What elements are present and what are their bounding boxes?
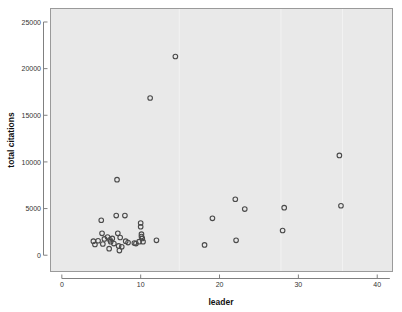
plot-area-background — [50, 8, 393, 272]
y-tick-label: 15000 — [22, 112, 42, 119]
x-tick-label: 40 — [373, 281, 381, 288]
y-tick-label: 20000 — [22, 65, 42, 72]
y-tick-label: 5000 — [25, 205, 41, 212]
x-tick-label: 30 — [294, 281, 302, 288]
x-tick-label: 10 — [137, 281, 145, 288]
x-tick-label: 0 — [60, 281, 64, 288]
x-tick-label: 20 — [216, 281, 224, 288]
y-tick-label: 25000 — [22, 19, 42, 26]
x-axis-title: leader — [208, 297, 234, 307]
y-tick-label: 10000 — [22, 159, 42, 166]
y-axis: 0500010000150002000025000 — [22, 19, 48, 259]
chart-canvas: 0500010000150002000025000 010203040 lead… — [0, 0, 402, 312]
y-tick-label: 0 — [37, 252, 41, 259]
x-axis: 010203040 — [60, 275, 390, 289]
scatter-plot-figure: 0500010000150002000025000 010203040 lead… — [0, 0, 402, 312]
y-axis-title: total citations — [6, 112, 16, 168]
